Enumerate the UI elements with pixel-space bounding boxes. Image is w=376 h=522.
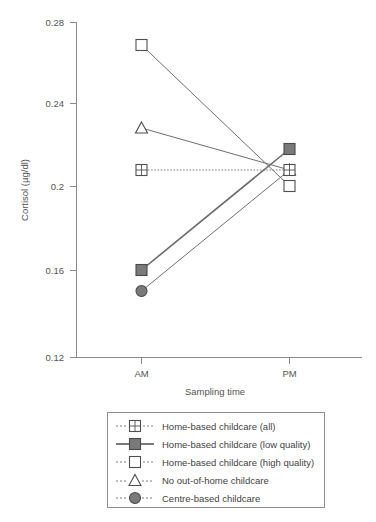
- y-tick-label-0.28: 0.28: [46, 17, 65, 28]
- chart-legend: Home-based childcare (all) Home-based ch…: [107, 412, 325, 508]
- y-tick-label-0.2: 0.2: [51, 181, 64, 192]
- legend-label: Home-based childcare (low quality): [162, 439, 310, 450]
- legend-item-home-based-high-quality: Home-based childcare (high quality): [114, 453, 324, 471]
- y-tick-label-0.16: 0.16: [46, 265, 65, 276]
- legend-key-open-square-icon: [114, 454, 156, 470]
- legend-item-home-based-all: Home-based childcare (all): [114, 417, 324, 435]
- legend-label: No out-of-home childcare: [162, 475, 269, 486]
- legend-key-filled-circle-icon: [114, 490, 156, 506]
- datapoint-home-based-high-quality-pm: [284, 181, 295, 192]
- series-line-no-out-of-home: [142, 128, 290, 170]
- legend-key-open-triangle-icon: [114, 472, 156, 488]
- x-tick-label-pm: PM: [282, 368, 296, 379]
- x-tick-label-am: AM: [134, 368, 148, 379]
- legend-item-home-based-low-quality: Home-based childcare (low quality): [114, 435, 324, 453]
- datapoint-no-out-of-home-am: [136, 122, 148, 133]
- datapoint-home-based-low-quality-am: [136, 265, 147, 276]
- legend-item-no-out-of-home: No out-of-home childcare: [114, 471, 324, 489]
- series-line-home-based-high-quality: [142, 45, 290, 186]
- legend-key-crossed-square-icon: [114, 418, 156, 434]
- legend-key-filled-square-icon: [114, 436, 156, 452]
- datapoint-home-based-all-am: [136, 165, 147, 176]
- legend-item-centre-based: Centre-based childcare: [114, 489, 324, 507]
- legend-label: Home-based childcare (all): [162, 421, 276, 432]
- legend-label: Centre-based childcare: [162, 493, 260, 504]
- y-tick-label-0.24: 0.24: [46, 98, 65, 109]
- datapoint-centre-based-am: [136, 286, 147, 297]
- datapoint-home-based-low-quality-pm: [284, 144, 295, 155]
- datapoint-home-based-all-pm: [284, 165, 295, 176]
- legend-rows: Home-based childcare (all) Home-based ch…: [108, 413, 324, 507]
- y-axis-title: Cortisol (µg/dl): [19, 159, 30, 221]
- y-tick-label-0.12: 0.12: [46, 352, 65, 363]
- chart-plot-area: 0.28 0.24 0.2 0.16 0.12 AM PM Sampling t…: [0, 0, 376, 410]
- datapoint-home-based-high-quality-am: [136, 40, 147, 51]
- cortisol-line-chart-figure: 0.28 0.24 0.2 0.16 0.12 AM PM Sampling t…: [0, 0, 376, 522]
- x-axis-title: Sampling time: [185, 386, 245, 397]
- series-line-home-based-low-quality: [142, 149, 290, 270]
- series-line-centre-based: [142, 170, 290, 291]
- legend-label: Home-based childcare (high quality): [162, 457, 314, 468]
